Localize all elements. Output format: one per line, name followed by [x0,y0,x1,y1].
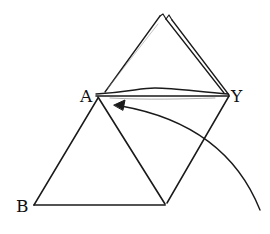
arrow-head-icon [114,100,125,110]
vertex-label-y: Y [231,88,242,105]
triangle-diagram [0,0,270,234]
upper-triangle-right-edge-2 [172,20,229,95]
curved-arrow-path [121,106,260,210]
upper-triangle-inner-line [108,24,158,88]
vertex-label-a: A [80,88,92,105]
triangle-left-edge [34,98,98,205]
upper-triangle-apex-1 [160,14,166,19]
rhombus-right-edge [167,96,229,203]
fold-edge-top [96,88,228,94]
vertex-label-b: B [16,198,29,215]
fold-edge-shadow [110,98,215,99]
upper-triangle-left-edge [105,16,160,92]
diagram-canvas: A Y B [0,0,270,234]
triangle-right-edge [98,97,165,204]
upper-triangle-right-edge-1 [166,19,224,93]
